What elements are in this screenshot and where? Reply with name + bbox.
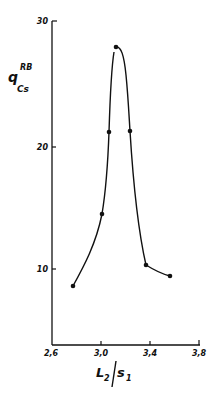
x-axis-label: L 2 s 1 <box>96 361 132 387</box>
data-point <box>128 129 133 134</box>
svg-text:2: 2 <box>104 374 110 383</box>
series-curve <box>73 47 170 286</box>
x-tick-3.0: 3,0 <box>94 349 109 358</box>
data-point <box>168 274 173 279</box>
x-tick-2.6: 2,6 <box>44 349 59 358</box>
y-axis: 30 20 10 <box>37 17 57 345</box>
svg-text:s: s <box>117 365 125 380</box>
y-tick-20: 20 <box>37 143 49 152</box>
data-point <box>71 284 76 289</box>
svg-text:Cs: Cs <box>17 84 30 94</box>
data-series <box>71 45 173 289</box>
svg-text:1: 1 <box>126 374 132 383</box>
x-tick-3.4: 3,4 <box>143 349 158 358</box>
y-axis-label: q RB Cs <box>8 63 32 94</box>
data-point <box>144 263 149 268</box>
y-tick-30: 30 <box>37 17 49 26</box>
svg-text:RB: RB <box>20 63 32 72</box>
data-point <box>100 212 105 217</box>
data-point <box>114 45 119 50</box>
x-tick-3.8: 3,8 <box>192 349 207 358</box>
x-axis: 2,6 3,0 3,4 3,8 <box>44 340 207 358</box>
data-point <box>107 130 112 135</box>
svg-text:q: q <box>8 69 18 85</box>
chart: 30 20 10 2,6 3,0 3,4 3,8 q RB Cs L 2 s 1 <box>0 0 216 403</box>
y-tick-10: 10 <box>37 265 49 274</box>
